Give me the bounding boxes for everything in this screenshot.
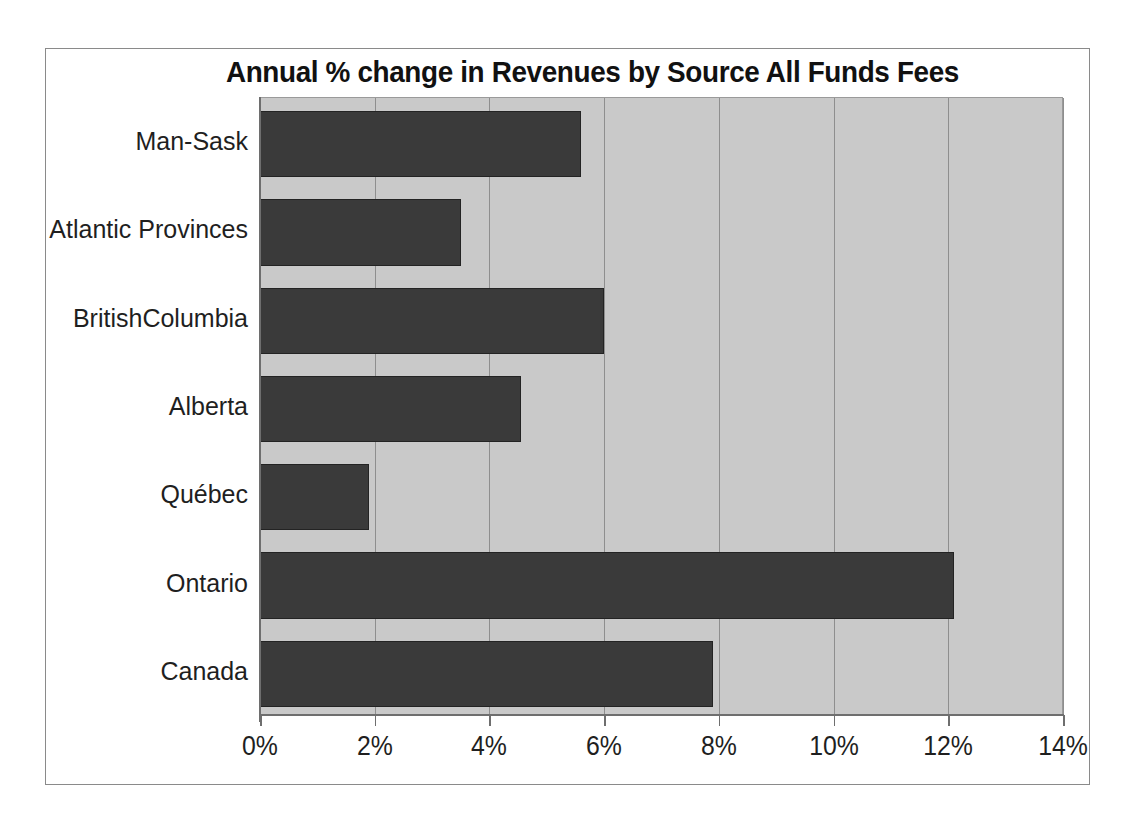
gridline-12%: [948, 98, 949, 715]
x-axis-line: [260, 714, 1064, 716]
figure-canvas: Annual % change in Revenues by Source Al…: [0, 0, 1131, 827]
bar: [260, 376, 521, 442]
gridline-8%: [719, 98, 720, 715]
tick-mark: [260, 715, 262, 726]
bar: [260, 288, 604, 354]
tick-mark: [375, 715, 377, 726]
chart-title: Annual % change in Revenues by Source Al…: [226, 55, 914, 89]
y-axis-label: Alberta: [45, 392, 260, 421]
tick-mark: [719, 715, 721, 726]
x-axis-label: 0%: [242, 731, 278, 762]
x-axis-label: 8%: [701, 731, 737, 762]
x-axis-label: 6%: [586, 731, 622, 762]
bar: [260, 641, 713, 707]
y-axis-label: Ontario: [45, 569, 260, 598]
gridline-10%: [834, 98, 835, 715]
x-axis-label: 4%: [471, 731, 507, 762]
tick-mark: [1063, 715, 1065, 726]
tick-mark: [604, 715, 606, 726]
y-axis-label: Atlantic Provinces: [45, 215, 260, 244]
y-axis-label: BritishColumbia: [45, 304, 260, 333]
tick-mark: [834, 715, 836, 726]
bar: [260, 111, 581, 177]
bar: [260, 199, 461, 265]
bar: [260, 552, 954, 618]
x-axis-label: 2%: [357, 731, 393, 762]
x-axis-label: 14%: [1038, 731, 1088, 762]
y-axis-label: Canada: [45, 657, 260, 686]
tick-mark: [489, 715, 491, 726]
gridline-14%: [1063, 98, 1064, 715]
y-axis-label: Québec: [45, 480, 260, 509]
tick-mark: [948, 715, 950, 726]
bar: [260, 464, 369, 530]
x-axis-label: 12%: [923, 731, 973, 762]
y-axis-category-labels: Man-SaskAtlantic ProvincesBritishColumbi…: [35, 97, 260, 715]
y-axis-label: Man-Sask: [45, 127, 260, 156]
x-axis-label: 10%: [809, 731, 859, 762]
gridline-6%: [604, 98, 605, 715]
plot-area: [260, 97, 1063, 715]
